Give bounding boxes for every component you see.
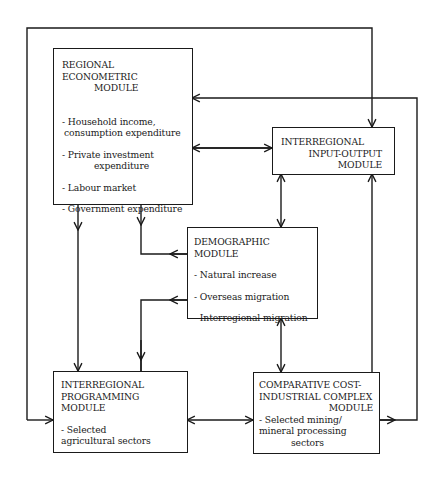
regional-title-2: MODULE [62, 82, 186, 94]
programming-title-1: INTERREGIONAL [61, 379, 181, 391]
programming-item-1: - Selected [61, 424, 181, 436]
cost-title-3: MODULE [259, 402, 373, 414]
regional-title-1: REGIONAL ECONOMETRIC [62, 59, 186, 82]
demographic-item-natural: - Natural increase [194, 269, 313, 281]
interregional-programming-module: INTERREGIONAL PROGRAMMING MODULE - Selec… [53, 371, 188, 453]
programming-item-2: agricultural sectors [61, 435, 181, 447]
interregional-input-output-module: INTERREGIONAL INPUT-OUTPUT MODULE [272, 127, 395, 175]
cost-item-3: sectors [259, 437, 373, 449]
demographic-item-interregional: - Interregional migration [194, 312, 313, 324]
io-title-1: INTERREGIONAL [281, 136, 386, 148]
regional-item-household: - Household income, consumption expendit… [62, 116, 186, 139]
cost-title-2: INDUSTRIAL COMPLEX [259, 391, 373, 403]
demographic-item-overseas: - Overseas migration [194, 291, 313, 303]
comparative-cost-industrial-complex-module: COMPARATIVE COST- INDUSTRIAL COMPLEX MOD… [253, 372, 380, 454]
io-title-3: MODULE [281, 159, 386, 171]
demographic-module: DEMOGRAPHIC MODULE - Natural increase - … [187, 227, 318, 319]
item-text: - Household income, [62, 116, 186, 128]
regional-item-investment: - Private investment expenditure [62, 149, 186, 172]
cost-item-2: mineral processing [259, 425, 373, 437]
programming-title-2: PROGRAMMING MODULE [61, 391, 181, 414]
cost-item-1: - Selected mining/ [259, 414, 373, 426]
regional-item-labour: - Labour market [62, 182, 186, 194]
regional-item-government: - Government expenditure [62, 203, 186, 215]
io-title-2: INPUT-OUTPUT [281, 148, 386, 160]
cost-title-1: COMPARATIVE COST- [259, 379, 373, 391]
demographic-title: DEMOGRAPHIC MODULE [194, 236, 313, 259]
item-text: consumption expenditure [62, 127, 186, 139]
regional-econometric-module: REGIONAL ECONOMETRIC MODULE - Household … [53, 48, 193, 205]
item-text: expenditure [62, 160, 186, 172]
item-text: - Private investment [62, 149, 186, 161]
